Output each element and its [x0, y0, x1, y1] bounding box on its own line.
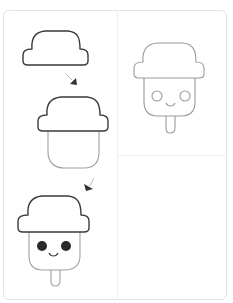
- step-3-complete: [18, 196, 89, 286]
- arrow-icon: [66, 74, 77, 85]
- right-eye-icon: [61, 241, 71, 251]
- arrow-icon: [84, 178, 94, 191]
- smile-icon: [49, 253, 58, 256]
- left-eye-icon: [37, 241, 47, 251]
- step-2-hat-body: [38, 97, 108, 168]
- step-1-hat: [23, 31, 88, 65]
- final-drawing: [134, 43, 204, 133]
